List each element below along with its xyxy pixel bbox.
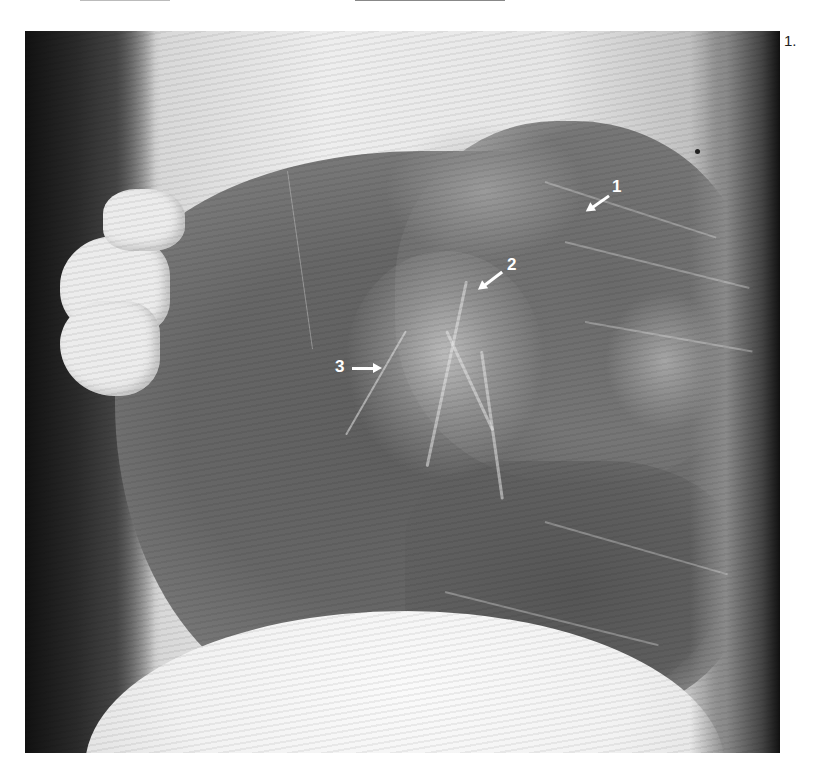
- annotation-label-1: 1: [612, 177, 621, 197]
- xray-image: [25, 31, 780, 753]
- annotation-label-2: 2: [507, 255, 516, 275]
- figure-label: 1.: [784, 32, 797, 49]
- annotation-label-3: 3: [335, 357, 344, 377]
- scan-texture: [25, 31, 780, 753]
- top-rule-left: [80, 0, 170, 1]
- top-rule-right: [355, 0, 505, 1]
- arrow-icon-3: [352, 367, 376, 370]
